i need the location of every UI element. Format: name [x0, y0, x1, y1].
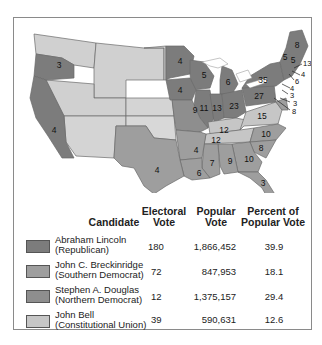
label-rhode-island: 4: [301, 70, 305, 79]
label-mississippi: 7: [210, 158, 215, 168]
us-map-1860: 3 4 4 5 6 4 11 13 23 27 35 8 5 5 9 12 15…: [14, 18, 311, 193]
percent-popular-vote: 18.1: [259, 266, 289, 277]
candidate-party: (Southern Democrat): [55, 270, 144, 280]
header-electoral-line2: Vote: [134, 217, 194, 228]
percent-popular-vote: 39.9: [259, 241, 289, 252]
label-illinois: 11: [200, 103, 209, 113]
swatch-bell: [26, 315, 50, 328]
leader-delaware: [282, 90, 288, 94]
label-minnesota: 4: [178, 56, 183, 66]
label-alabama: 9: [228, 156, 233, 166]
label-wisconsin: 5: [202, 70, 207, 80]
label-oregon: 3: [57, 60, 62, 70]
label-new-york: 35: [258, 75, 268, 85]
label-massachusetts: 13: [303, 59, 311, 68]
header-percent: Percent of Popular Vote: [236, 206, 310, 228]
label-virginia: 15: [257, 111, 267, 121]
label-new-hampshire: 5: [291, 55, 296, 65]
swatch-breckinridge: [26, 265, 50, 278]
percent-popular-vote: 12.6: [259, 314, 289, 325]
candidate-party: (Republican): [55, 245, 126, 255]
label-vermont: 5: [283, 52, 288, 62]
label-texas: 4: [155, 165, 160, 175]
label-connecticut: 6: [295, 77, 299, 86]
label-arkansas: 4: [194, 145, 199, 155]
candidate-bell: John Bell (Constitutional Union): [55, 310, 146, 330]
electoral-vote: 180: [148, 241, 164, 252]
label-michigan: 6: [226, 77, 231, 87]
leader-new-jersey: [282, 84, 290, 88]
swatch-lincoln: [26, 240, 50, 253]
popular-vote: 1,866,452: [184, 241, 236, 252]
popular-vote: 590,631: [184, 314, 236, 325]
electoral-vote: 72: [151, 266, 162, 277]
nebraska-territory: [94, 43, 164, 98]
popular-vote: 1,375,157: [184, 291, 236, 302]
percent-popular-vote: 29.4: [259, 291, 289, 302]
election-map-figure: 3 4 4 5 6 4 11 13 23 27 35 8 5 5 9 12 15…: [13, 17, 312, 330]
legend-row-lincoln: Abraham Lincoln (Republican) 180 1,866,4…: [14, 234, 311, 260]
label-kentucky: 12: [219, 125, 229, 135]
candidate-party: (Constitutional Union): [55, 320, 146, 330]
label-maine: 8: [295, 40, 300, 50]
arkansas: [176, 130, 206, 160]
label-south-carolina: 8: [259, 143, 264, 153]
label-california: 4: [52, 125, 57, 135]
header-percent-line2: Popular Vote: [236, 217, 310, 228]
label-north-carolina: 10: [261, 129, 271, 139]
header-electoral: Electoral Vote: [134, 206, 194, 228]
popular-vote: 847,953: [184, 266, 236, 277]
label-ohio: 23: [229, 101, 239, 111]
swatch-douglas: [26, 290, 50, 303]
candidate-party: (Northern Democrat): [55, 295, 142, 305]
electoral-vote: 12: [151, 291, 162, 302]
legend-row-bell: John Bell (Constitutional Union) 39 590,…: [14, 309, 311, 335]
label-missouri: 9: [193, 105, 198, 115]
candidate-breckinridge: John C. Breckinridge (Southern Democrat): [55, 260, 144, 280]
florida: [238, 172, 276, 193]
candidate-douglas: Stephen A. Douglas (Northern Democrat): [55, 285, 142, 305]
candidate-lincoln: Abraham Lincoln (Republican): [55, 235, 126, 255]
map-svg: 3 4 4 5 6 4 11 13 23 27 35 8 5 5 9 12 15…: [14, 18, 311, 193]
label-iowa: 4: [178, 85, 183, 95]
legend-row-douglas: Stephen A. Douglas (Northern Democrat) 1…: [14, 284, 311, 310]
label-florida: 3: [261, 178, 266, 188]
kansas-territory: [126, 98, 174, 116]
label-pennsylvania: 27: [254, 91, 264, 101]
label-indiana: 13: [212, 103, 222, 113]
electoral-vote: 39: [151, 314, 162, 325]
label-maryland: 8: [292, 107, 296, 116]
label-louisiana: 6: [197, 168, 202, 178]
label-georgia: 10: [244, 154, 254, 164]
legend-row-breckinridge: John C. Breckinridge (Southern Democrat)…: [14, 259, 311, 285]
label-tennessee: 12: [211, 135, 221, 145]
